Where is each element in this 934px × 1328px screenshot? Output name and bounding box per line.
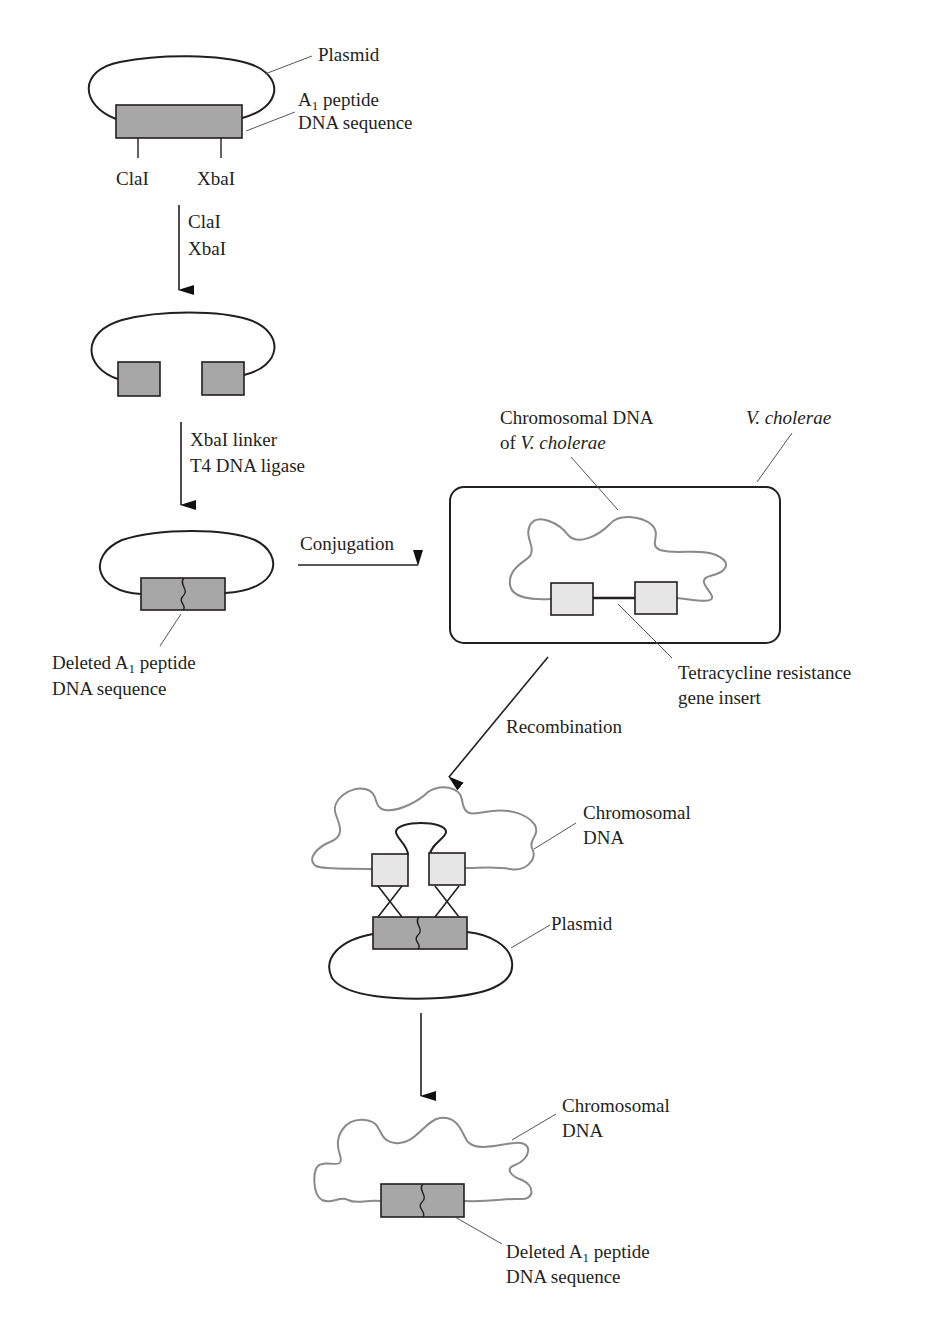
deleted-a1-label-line2: DNA sequence xyxy=(52,677,167,701)
deleted-label-suffix: peptide xyxy=(135,652,196,673)
a1-peptide-box xyxy=(116,105,242,138)
tet-loop xyxy=(396,823,446,855)
chromosome-leader-line xyxy=(571,457,618,510)
arrow2-label-line1: XbaI linker xyxy=(190,428,277,452)
tet-flank-left xyxy=(372,854,408,886)
deleted-label-prefix: Deleted A xyxy=(52,652,129,673)
label-prefix: of xyxy=(500,432,521,453)
vcholerae-cell xyxy=(450,433,792,658)
a1-fragment-right xyxy=(202,362,244,395)
vcholerae-chromosome-label-line2: of V. cholerae xyxy=(500,431,606,455)
xbai-site-label: XbaI xyxy=(197,167,235,191)
species-name: V. cholerae xyxy=(521,432,606,453)
recomb-chromosome-label-line1: Chromosomal xyxy=(583,801,691,825)
plasmid-leader-line xyxy=(265,56,312,74)
a1-label-suffix: peptide xyxy=(318,89,379,110)
final-chromosome-label-line1: Chromosomal xyxy=(562,1094,670,1118)
deleted-leader-line xyxy=(455,1217,502,1244)
tet-flank-right xyxy=(429,853,465,885)
chromosome-leader-line xyxy=(512,1114,556,1140)
chromosome-leader-line xyxy=(534,823,576,849)
final-chromosome-label-line2: DNA xyxy=(562,1119,603,1143)
plasmid-leader-line xyxy=(511,925,550,948)
arrow1-label-line2: XbaI xyxy=(188,237,226,261)
step2-cut-plasmid xyxy=(92,313,275,397)
tet-flank-right xyxy=(635,582,677,614)
cell-outline xyxy=(450,487,780,643)
species-name: V. cholerae xyxy=(746,407,831,428)
step3-deleted-plasmid xyxy=(100,531,273,646)
a1-label-prefix: A xyxy=(298,89,312,110)
arrow1-label-line1: ClaI xyxy=(188,210,221,234)
tet-flank-left xyxy=(551,583,593,615)
deleted-label-suffix: peptide xyxy=(589,1241,650,1262)
cell-leader-line xyxy=(757,433,792,482)
chromosome-curve xyxy=(510,517,726,601)
vcholerae-cell-label: V. cholerae xyxy=(746,406,831,430)
final-deleted-a1-label-line2: DNA sequence xyxy=(506,1265,621,1289)
tet-label-line1: Tetracycline resistance xyxy=(678,661,851,685)
recombination-label: Recombination xyxy=(506,715,622,739)
recomb-plasmid-label: Plasmid xyxy=(551,912,612,936)
recomb-chromosome-label-line2: DNA xyxy=(583,826,624,850)
deleted-label-prefix: Deleted A xyxy=(506,1241,583,1262)
chromosome-curve xyxy=(312,787,536,869)
step1-plasmid xyxy=(89,56,312,158)
clai-site-label: ClaI xyxy=(116,167,149,191)
plasmid-label: Plasmid xyxy=(318,43,379,67)
conjugation-label: Conjugation xyxy=(300,532,394,556)
a1-fragment-left xyxy=(118,362,160,396)
arrow2-label-line2: T4 DNA ligase xyxy=(190,454,305,478)
tet-label-line2: gene insert xyxy=(678,686,761,710)
deleted-leader-line xyxy=(160,614,181,646)
recombination-step xyxy=(312,787,576,998)
final-step xyxy=(314,1114,556,1244)
a1-peptide-label-line2: DNA sequence xyxy=(298,111,413,135)
vcholerae-chromosome-label-line1: Chromosomal DNA xyxy=(500,406,654,430)
